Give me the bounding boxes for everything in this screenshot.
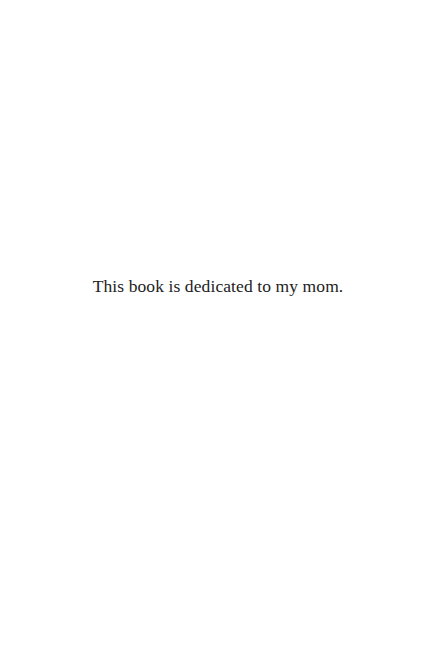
book-page: This book is dedicated to my mom.	[0, 0, 436, 670]
dedication-text: This book is dedicated to my mom.	[0, 276, 436, 296]
